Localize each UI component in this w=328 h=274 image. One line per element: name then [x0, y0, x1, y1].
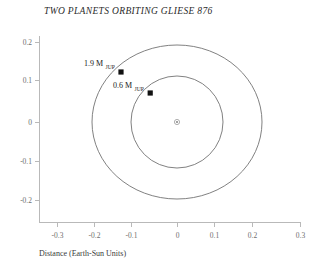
x-tick-label: -0.1 [126, 231, 138, 240]
x-tick-label: 0.2 [248, 231, 258, 240]
y-tick-label: -0.1 [20, 157, 32, 166]
star-marker [174, 119, 179, 124]
y-tick-label: -0.2 [20, 196, 32, 205]
x-tick-label: 0 [176, 231, 180, 240]
x-axis-title: Distance (Earth-Sun Units) [39, 249, 126, 258]
outer-planet-label: 1.9 M JUP [84, 59, 115, 70]
y-tick-label: 0 [28, 118, 32, 127]
y-tick-label: 0.1 [23, 76, 33, 85]
outer-planet-mass: 1.9 M [84, 59, 103, 68]
x-tick-label: 0.1 [210, 231, 220, 240]
x-tick-label: 0.3 [296, 231, 306, 240]
inner-planet-mass: 0.6 M [113, 81, 132, 90]
outer-planet-marker [118, 69, 123, 74]
y-axis-tick-labels: 0.2 0.1 0 -0.1 -0.2 [20, 38, 32, 205]
x-axis-tick-labels: -0.3 -0.2 -0.1 0 0.1 0.2 0.3 [52, 231, 306, 240]
outer-planet-mass-subscript: JUP [106, 64, 115, 70]
inner-planet-marker [148, 90, 153, 95]
chart-page: TWO PLANETS ORBITING GLIESE 876 0.2 0.1 … [0, 0, 328, 274]
y-tick-label: 0.2 [23, 38, 33, 47]
orbit-plot: 0.2 0.1 0 -0.1 -0.2 -0.3 -0.2 -0.1 0 0.1… [0, 0, 328, 274]
inner-planet-label: 0.6 M JUP [113, 81, 144, 92]
x-axis-ticks [58, 223, 301, 228]
inner-planet-mass-subscript: JUP [135, 86, 144, 92]
x-tick-label: -0.2 [89, 231, 101, 240]
x-tick-label: -0.3 [52, 231, 64, 240]
y-axis-ticks [35, 43, 40, 201]
